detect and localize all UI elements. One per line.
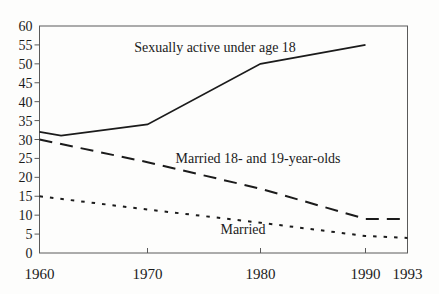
x-axis-tick-label: 1970 [133, 266, 163, 282]
y-axis-tick-label: 5 [26, 227, 33, 242]
y-axis-tick-label: 40 [19, 95, 33, 110]
x-axis-tick-label: 1980 [246, 266, 276, 282]
series-label-married-18-19: Married 18- and 19-year-olds [176, 151, 341, 166]
line-chart: 0510152025303540455055601960197019801990… [0, 0, 439, 294]
figure: 0510152025303540455055601960197019801990… [0, 0, 439, 294]
x-axis-tick-label: 1990 [351, 266, 381, 282]
y-axis-tick-label: 10 [19, 208, 33, 223]
plot-frame [40, 26, 408, 253]
y-axis-tick-label: 55 [19, 38, 33, 53]
series-label-married: Married [220, 222, 265, 237]
y-axis-tick-label: 25 [19, 151, 33, 166]
x-axis-tick-label: 1960 [25, 266, 55, 282]
y-axis-tick-label: 50 [19, 57, 33, 72]
series-line-sexually-active-under-18 [40, 45, 366, 136]
x-axis-tick-label: 1993 [393, 266, 423, 282]
y-axis-tick-label: 60 [19, 19, 33, 34]
y-axis-tick-label: 0 [26, 246, 33, 261]
y-axis-tick-label: 20 [19, 170, 33, 185]
y-axis-tick-label: 15 [19, 189, 33, 204]
y-axis-tick-label: 35 [19, 114, 33, 129]
y-axis-tick-label: 30 [19, 133, 33, 148]
y-axis-tick-label: 45 [19, 76, 33, 91]
series-label-sexually-active-under-18: Sexually active under age 18 [134, 40, 296, 55]
